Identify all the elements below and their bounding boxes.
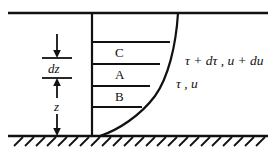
z-label: z [54,100,59,113]
ground-hatching [14,137,265,146]
velocity-profile-figure: C A B dz z τ + dτ , u + du τ , u [0,0,276,155]
dz-arrow-down [53,34,61,58]
dz-label: dz [48,62,60,75]
layer-label-a: A [115,68,124,81]
z-arrow-down [53,114,61,136]
fluid-layer-lines [92,42,170,107]
z-arrow-up [53,78,61,98]
velocity-profile-curve [100,13,178,136]
lower-stress-velocity-label: τ , u [176,77,198,91]
upper-stress-velocity-label: τ + dτ , u + du [185,54,264,68]
layer-label-c: C [115,46,124,59]
diagram-canvas [0,0,276,155]
layer-label-b: B [115,90,124,103]
